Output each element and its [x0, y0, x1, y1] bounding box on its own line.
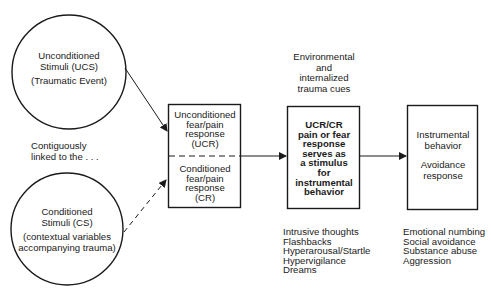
ucs-label: Unconditioned Stimuli (UCS) (Traumatic E…	[29, 51, 109, 87]
behavior-box-label: Instrumental behavior Avoidance response	[408, 130, 478, 181]
avoidance-symptoms-list: Emotional numbing Social avoidance Subst…	[403, 227, 485, 265]
cs-to-cr-arrow	[124, 180, 166, 232]
intrusive-symptoms-list: Intrusive thoughts Flashbacks Hyperarous…	[283, 227, 370, 275]
trauma-cues-label: Environmental and internalized trauma cu…	[284, 52, 364, 94]
cr-label: Conditioned fear/pain response (CR)	[169, 164, 241, 202]
contiguously-linked-label: Contiguously linked to the . . .	[31, 141, 99, 162]
stimulus-box-label: UCR/CR pain or fear response serves as a…	[288, 120, 360, 197]
ucr-label: Unconditioned fear/pain response (UCR)	[169, 110, 241, 148]
cs-label: Conditioned Stimuli (CS) (contextual var…	[17, 207, 117, 253]
ucs-to-ucr-arrow	[125, 68, 167, 131]
